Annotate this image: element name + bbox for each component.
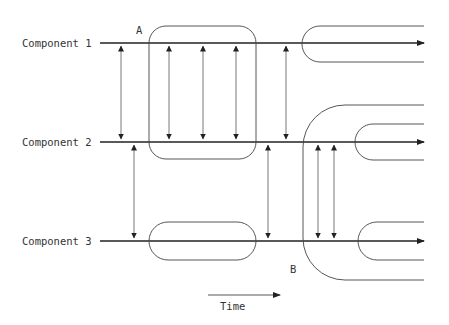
region-a-box xyxy=(149,26,256,159)
component-1-right-pill xyxy=(302,26,424,62)
marker-b: B xyxy=(290,263,296,275)
time-label: Time xyxy=(220,300,245,312)
component-2-label: Component 2 xyxy=(22,136,92,148)
sync-arrows-c1-c2 xyxy=(121,46,286,139)
component-1-label: Component 1 xyxy=(22,37,92,49)
marker-a: A xyxy=(136,24,143,36)
timing-diagram: Component 1 Component 2 Component 3 A B … xyxy=(0,0,449,325)
component-3-label: Component 3 xyxy=(22,235,92,247)
